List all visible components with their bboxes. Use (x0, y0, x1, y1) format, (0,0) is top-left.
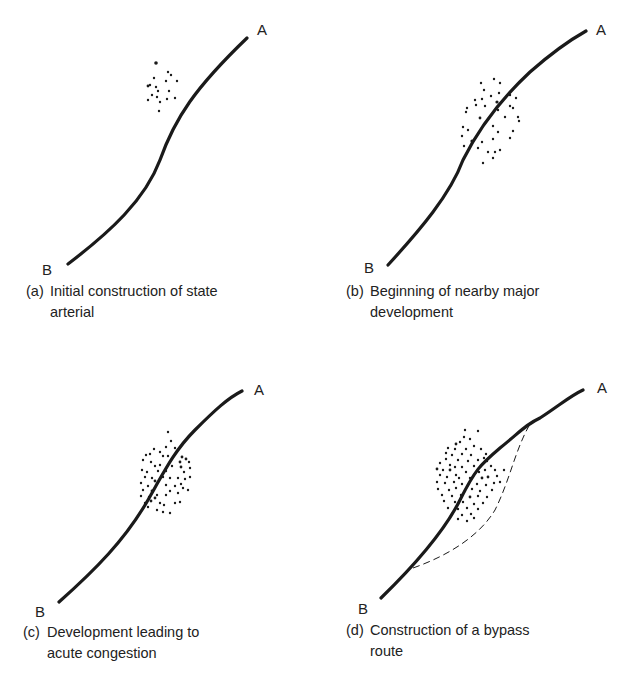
caption-line2: development (346, 302, 539, 323)
caption-line2: route (346, 641, 530, 662)
caption-tag: (b) (346, 281, 370, 302)
endpoint-label-a: A (257, 22, 267, 37)
panel-a (68, 38, 247, 264)
arterial-road (59, 391, 242, 602)
caption-panel-c: (c)Development leading to acute congesti… (23, 622, 199, 664)
caption-line1: Development leading to (47, 624, 199, 640)
development-dots (436, 429, 506, 522)
arterial-road (381, 390, 583, 598)
caption-line1: Initial construction of state (50, 283, 218, 299)
caption-panel-d: (d)Construction of a bypass route (346, 620, 530, 662)
development-dots (147, 61, 179, 112)
endpoint-label-b: B (42, 262, 52, 277)
arterial-road (388, 31, 586, 265)
endpoint-label-b: B (364, 260, 374, 275)
endpoint-label-b: B (35, 604, 45, 619)
endpoint-label-a: A (254, 382, 264, 397)
caption-panel-a: (a)Initial construction of state arteria… (26, 281, 218, 323)
caption-line2: acute congestion (23, 643, 199, 664)
caption-tag: (a) (26, 281, 50, 302)
panel-c (59, 391, 242, 602)
endpoint-label-b: B (358, 601, 368, 616)
endpoint-label-a: A (596, 22, 606, 37)
caption-tag: (d) (346, 620, 370, 641)
panel-b (388, 31, 586, 265)
caption-tag: (c) (23, 622, 47, 643)
caption-line1: Beginning of nearby major (370, 283, 539, 299)
caption-line1: Construction of a bypass (370, 622, 530, 638)
caption-line2: arterial (26, 302, 218, 323)
diagram-canvas (0, 0, 638, 685)
caption-panel-b: (b)Beginning of nearby major development (346, 281, 539, 323)
panel-d (381, 390, 583, 598)
arterial-road (68, 38, 247, 264)
endpoint-label-a: A (597, 380, 607, 395)
